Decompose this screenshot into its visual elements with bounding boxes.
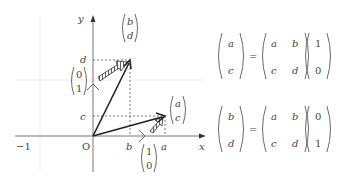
guide-lines [93, 60, 165, 136]
tick-c-label: c [80, 111, 86, 122]
svg-text:a: a [271, 111, 277, 122]
tick-b-label: b [126, 141, 132, 152]
linear-map-diagram: y x O −1 b a c d b d a c 0 1 1 0 a c = [0, 0, 345, 181]
svg-text:c: c [271, 65, 277, 76]
svg-text:c: c [175, 112, 181, 123]
svg-text:=: = [249, 51, 257, 62]
x-axis-label: x [199, 141, 205, 152]
x-axis [15, 134, 206, 139]
svg-text:a: a [228, 38, 234, 49]
y-axis-label: y [77, 13, 84, 24]
svg-text:a: a [271, 38, 277, 49]
svg-text:b: b [127, 16, 133, 27]
svg-text:0: 0 [146, 160, 152, 171]
svg-text:1: 1 [315, 38, 321, 49]
svg-text:b: b [228, 111, 234, 122]
equation-2: b d = a b c d 0 1 [219, 106, 331, 152]
grid [15, 16, 205, 172]
vector-e1-label: 1 0 [142, 144, 157, 172]
svg-text:d: d [228, 138, 234, 149]
tick-a-label: a [161, 141, 167, 152]
svg-text:=: = [249, 124, 257, 135]
svg-text:0: 0 [315, 111, 321, 122]
svg-text:b: b [292, 38, 298, 49]
svg-text:d: d [292, 138, 298, 149]
svg-text:b: b [292, 111, 298, 122]
svg-text:c: c [271, 138, 277, 149]
equation-1: a c = a b c d 1 0 [219, 33, 331, 79]
svg-text:0: 0 [315, 65, 321, 76]
svg-text:0: 0 [76, 69, 82, 80]
vector-ac-arrow [93, 113, 165, 136]
hatched-arrow-e2-to-bd [98, 61, 128, 81]
svg-text:1: 1 [146, 146, 152, 157]
svg-text:1: 1 [315, 138, 321, 149]
vector-ac-label: a c [171, 96, 186, 124]
tick-d-label: d [80, 54, 86, 65]
vector-bd-label: b d [123, 14, 138, 42]
neg-one-label: −1 [16, 141, 31, 152]
svg-text:a: a [175, 98, 181, 109]
svg-text:d: d [127, 30, 133, 41]
svg-text:1: 1 [76, 83, 82, 94]
vector-e2-label: 0 1 [72, 67, 87, 95]
y-axis [91, 15, 96, 172]
svg-text:c: c [228, 65, 234, 76]
svg-text:d: d [292, 65, 298, 76]
origin-label: O [82, 141, 90, 152]
